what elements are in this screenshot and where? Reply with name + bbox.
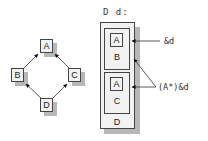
edge-c-to-a-arrow-icon (55, 54, 69, 68)
edge-d-to-b-arrow-icon (26, 84, 41, 98)
cast-arrow-upper-icon (134, 59, 156, 87)
arrows-layer (0, 0, 208, 141)
edge-d-to-c-arrow-icon (53, 84, 67, 98)
edge-b-to-a-arrow-icon (24, 54, 38, 68)
